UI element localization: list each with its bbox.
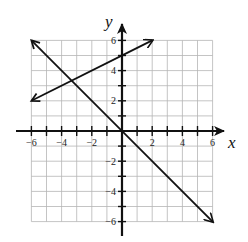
x-tick-label: −2 (86, 137, 97, 148)
y-tick-label: 4 (111, 65, 116, 76)
y-tick-label: −2 (105, 156, 116, 167)
y-tick-label: 2 (111, 95, 116, 106)
x-axis-label: x (227, 133, 236, 152)
x-tick-label: 6 (210, 137, 215, 148)
y-tick-label: −4 (105, 186, 116, 197)
y-axis-label: y (103, 12, 113, 31)
x-tick-label: 2 (150, 137, 155, 148)
coordinate-plane: −6−4−2246642−2−4−6 x y (0, 0, 248, 242)
y-tick-label: −6 (105, 216, 116, 227)
y-tick-label: 6 (111, 35, 116, 46)
x-tick-label: −6 (26, 137, 37, 148)
x-tick-label: −4 (56, 137, 67, 148)
x-tick-label: 4 (180, 137, 185, 148)
